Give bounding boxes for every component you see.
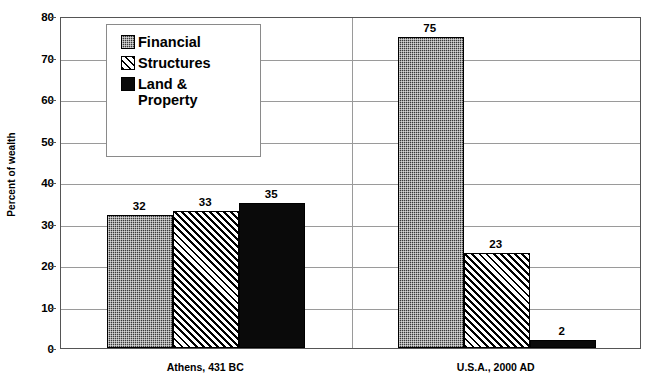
y-axis-title: Percent of wealth bbox=[0, 0, 22, 349]
y-tick-mark bbox=[50, 349, 56, 350]
bar bbox=[464, 253, 530, 348]
legend: FinancialStructuresLand & Property bbox=[106, 24, 261, 157]
y-tick-mark bbox=[50, 142, 56, 143]
y-tick-mark bbox=[50, 100, 56, 101]
bar-value-label: 35 bbox=[238, 188, 304, 200]
bar-value-label: 33 bbox=[172, 196, 238, 208]
y-tick-mark bbox=[50, 59, 56, 60]
legend-item[interactable]: Structures bbox=[121, 50, 260, 71]
category-label: U.S.A., 2000 AD bbox=[351, 361, 642, 373]
bar-value-label: 75 bbox=[397, 22, 463, 34]
y-axis-ticks: 01020304050607080 bbox=[22, 0, 54, 387]
legend-item[interactable]: Financial bbox=[121, 32, 260, 50]
bar-chart: Percent of wealth 01020304050607080 3233… bbox=[0, 0, 657, 387]
bar-value-label: 23 bbox=[463, 238, 529, 250]
bar bbox=[398, 37, 464, 348]
bar-value-label: 32 bbox=[106, 200, 172, 212]
bar bbox=[239, 203, 305, 348]
legend-swatch-icon bbox=[121, 35, 135, 49]
bar bbox=[107, 215, 173, 348]
legend-swatch-icon bbox=[121, 56, 135, 70]
legend-swatch-icon bbox=[121, 77, 135, 91]
gridline bbox=[61, 184, 640, 185]
category-label: Athens, 431 BC bbox=[60, 361, 351, 373]
legend-label: Structures bbox=[138, 55, 211, 71]
y-axis-title-text: Percent of wealth bbox=[6, 132, 17, 217]
y-tick-mark bbox=[50, 308, 56, 309]
bar-value-label: 2 bbox=[529, 325, 595, 337]
legend-label: Financial bbox=[138, 34, 201, 50]
legend-label: Land & Property bbox=[138, 76, 198, 108]
y-tick-mark bbox=[50, 17, 56, 18]
y-tick-mark bbox=[50, 225, 56, 226]
bar bbox=[173, 211, 239, 348]
y-tick-mark bbox=[50, 183, 56, 184]
legend-item[interactable]: Land & Property bbox=[121, 71, 260, 108]
y-tick-mark bbox=[50, 266, 56, 267]
bar bbox=[530, 340, 596, 348]
group-divider bbox=[352, 18, 353, 348]
